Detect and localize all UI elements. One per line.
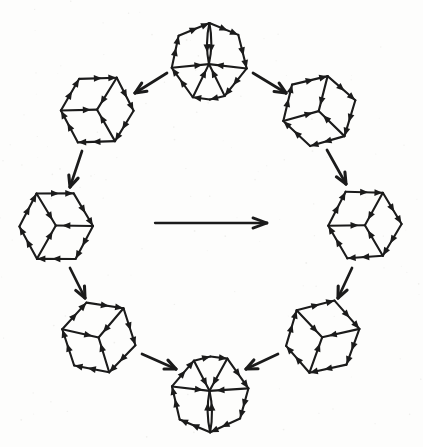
speckle-dot xyxy=(312,150,314,152)
speckle-dot xyxy=(313,203,314,204)
cube-edge xyxy=(322,329,359,337)
speckle-dot xyxy=(420,378,422,380)
speckle-dot xyxy=(103,22,104,23)
speckle-dot xyxy=(50,198,52,200)
cube-edge xyxy=(37,226,56,259)
cube-graph-top xyxy=(171,23,248,102)
speckle-dot xyxy=(90,175,91,176)
arrow-barb xyxy=(274,91,286,93)
cube-edge xyxy=(210,359,228,391)
speckle-dot xyxy=(314,235,315,236)
speckle-dot xyxy=(279,388,280,389)
edge-arrowhead xyxy=(347,254,355,261)
speckle-dot xyxy=(400,358,401,359)
speckle-dot xyxy=(375,423,376,424)
cube-edge xyxy=(99,337,110,372)
speckle-dot xyxy=(79,187,80,188)
figure-page: { "meta": { "description": "Hand-drawn f… xyxy=(0,0,423,447)
speckle-dot xyxy=(128,13,129,14)
edge-arrowhead xyxy=(189,28,198,34)
cube-edge xyxy=(365,193,383,225)
speckle-dot xyxy=(187,394,189,396)
speckle-dot xyxy=(279,219,280,220)
speckle-dot xyxy=(263,38,264,39)
edge-arrowhead xyxy=(100,343,107,352)
speckle-dot xyxy=(190,196,191,197)
speckle-dot xyxy=(231,147,232,148)
central-arrow xyxy=(155,218,267,228)
speckle-dot xyxy=(116,157,117,158)
speckle-dot xyxy=(276,60,277,61)
arrow-shaft xyxy=(135,73,167,93)
edge-arrowhead xyxy=(180,420,189,426)
speckle-dot xyxy=(141,248,142,249)
edge-arrowhead xyxy=(310,140,319,147)
speckle-dot xyxy=(10,144,11,145)
speckle-dot xyxy=(190,40,191,41)
edge-arrowhead xyxy=(291,310,298,319)
edge-arrowhead xyxy=(242,399,249,408)
edge-arrowhead xyxy=(130,336,136,345)
edge-arrowhead xyxy=(348,113,355,122)
speckle-dot xyxy=(318,413,319,414)
transition-arrow-top-to-upper-left xyxy=(135,73,167,93)
speckle-dot xyxy=(100,332,101,333)
cube-graph-lower-right xyxy=(286,299,359,374)
speckle-dot xyxy=(305,262,307,264)
speckle-dot xyxy=(223,140,224,141)
speckle-dot xyxy=(383,235,384,236)
speckle-dot xyxy=(351,75,352,76)
speckle-dot xyxy=(67,411,68,412)
speckle-dot xyxy=(315,286,316,287)
cube-edge xyxy=(61,110,97,111)
speckle-dot xyxy=(365,197,366,198)
arrow-shaft xyxy=(253,73,286,93)
edge-arrowhead xyxy=(219,24,228,30)
speckle-dot xyxy=(52,174,54,176)
edge-arrowhead xyxy=(346,356,352,365)
speckle-dot xyxy=(12,239,13,240)
speckle-dot xyxy=(418,283,420,285)
speckle-dot xyxy=(380,46,381,47)
speckle-dot xyxy=(409,413,411,415)
cube-edge xyxy=(97,78,117,110)
edge-arrowhead xyxy=(229,29,238,35)
edge-arrowhead xyxy=(360,189,368,196)
cube-graph-lower-left xyxy=(62,301,136,373)
cube-edge xyxy=(209,64,225,96)
edge-arrowhead xyxy=(344,127,351,136)
speckle-dot xyxy=(405,230,406,231)
speckle-dot xyxy=(107,274,108,275)
cube-edge xyxy=(193,64,209,97)
speckle-dot xyxy=(151,34,153,36)
speckle-dot xyxy=(33,392,34,393)
cube-edge xyxy=(37,194,56,226)
cube-graph-left xyxy=(19,190,93,262)
speckle-dot xyxy=(326,157,327,158)
speckle-dot xyxy=(20,419,22,421)
speckle-dot xyxy=(65,315,67,317)
cube-edge xyxy=(283,111,318,121)
cube-edge xyxy=(209,64,247,68)
speckle-dot xyxy=(35,72,36,73)
speckle-dot xyxy=(198,55,200,57)
speckle-dot xyxy=(99,300,100,301)
cube-edge xyxy=(210,388,249,390)
edge-arrowhead xyxy=(239,409,246,418)
cube-edge xyxy=(319,76,328,111)
speckle-dot xyxy=(303,285,304,286)
edge-arrowhead xyxy=(351,222,359,229)
speckle-dot xyxy=(383,267,384,268)
arrow-shaft xyxy=(327,150,346,184)
cube-edge xyxy=(172,64,209,68)
speckle-dot xyxy=(311,118,313,120)
speckle-dot xyxy=(47,146,48,147)
speckle-dot xyxy=(21,164,22,165)
speckle-dot xyxy=(60,65,61,66)
transition-arrow-upper-right-to-right xyxy=(327,150,346,184)
arrow-barb xyxy=(69,175,70,187)
edge-arrowhead xyxy=(304,112,313,119)
speckle-dot xyxy=(98,330,99,331)
speckle-dot xyxy=(2,160,3,161)
transition-arrow-right-to-lower-right xyxy=(338,268,352,298)
